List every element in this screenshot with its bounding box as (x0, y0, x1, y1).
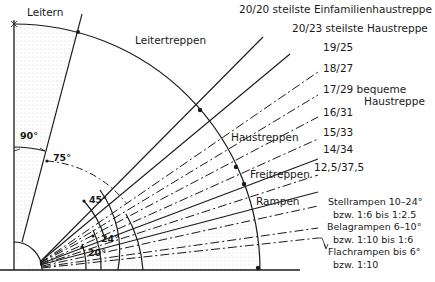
ratio-label-20-20: 20/20 steilste Einfamilienhaustreppe (239, 3, 432, 15)
ratio-label-18-27: 18/27 (323, 62, 353, 74)
label-freitreppen: Freitreppen (250, 168, 310, 180)
ratio-label-12-5-37-5: 12,5/37,5 (314, 161, 364, 173)
ratio-label-20-23: 20/23 steilste Haustreppe (292, 22, 428, 34)
angle-24: 24° (101, 233, 119, 244)
label-rampen: Rampen (256, 195, 300, 207)
angle-75: 75° (53, 152, 71, 163)
label-haustreppen: Haustreppen (231, 131, 299, 143)
stair-ratio-labels: 20/20 steilste Einfamilienhaustreppe 20/… (239, 3, 432, 173)
angle-20: 20° (88, 247, 106, 258)
ratio-label-17-29-note2: Haustreppe (364, 95, 425, 107)
ratio-label-19-25: 19/25 (323, 41, 353, 53)
label-leitern: Leitern (27, 6, 63, 18)
ramp-stellrampen-2: bzw. 1:6 bis 1:2.5 (333, 209, 416, 220)
label-leitertreppen: Leitertreppen (135, 34, 206, 46)
angle-45: 45° (89, 194, 107, 205)
ratio-label-17-29: 17/29 bequeme (323, 83, 406, 95)
ramp-flachrampen-1: Flachrampen bis 6° (328, 246, 421, 257)
angle-90: 90° (20, 130, 38, 141)
ramp-stellrampen-1: Stellrampen 10–24° (328, 196, 422, 207)
ratio-label-14-34: 14/34 (323, 143, 354, 155)
ramp-belagrampen-2: bzw. 1:10 bis 1:6 (333, 234, 413, 245)
ramp-belagrampen-1: Belagrampen 6–10° (327, 221, 421, 232)
ratio-label-16-31: 16/31 (323, 106, 353, 118)
ramp-flachrampen-2: bzw. 1:10 (333, 259, 378, 270)
slope-diagram: Leitern Leitertreppen Haustreppen Freitr… (0, 0, 435, 282)
ramp-labels: Stellrampen 10–24° bzw. 1:6 bis 1:2.5 Be… (327, 196, 422, 270)
ratio-label-15-33: 15/33 (323, 126, 353, 138)
arc-75 (47, 161, 127, 204)
